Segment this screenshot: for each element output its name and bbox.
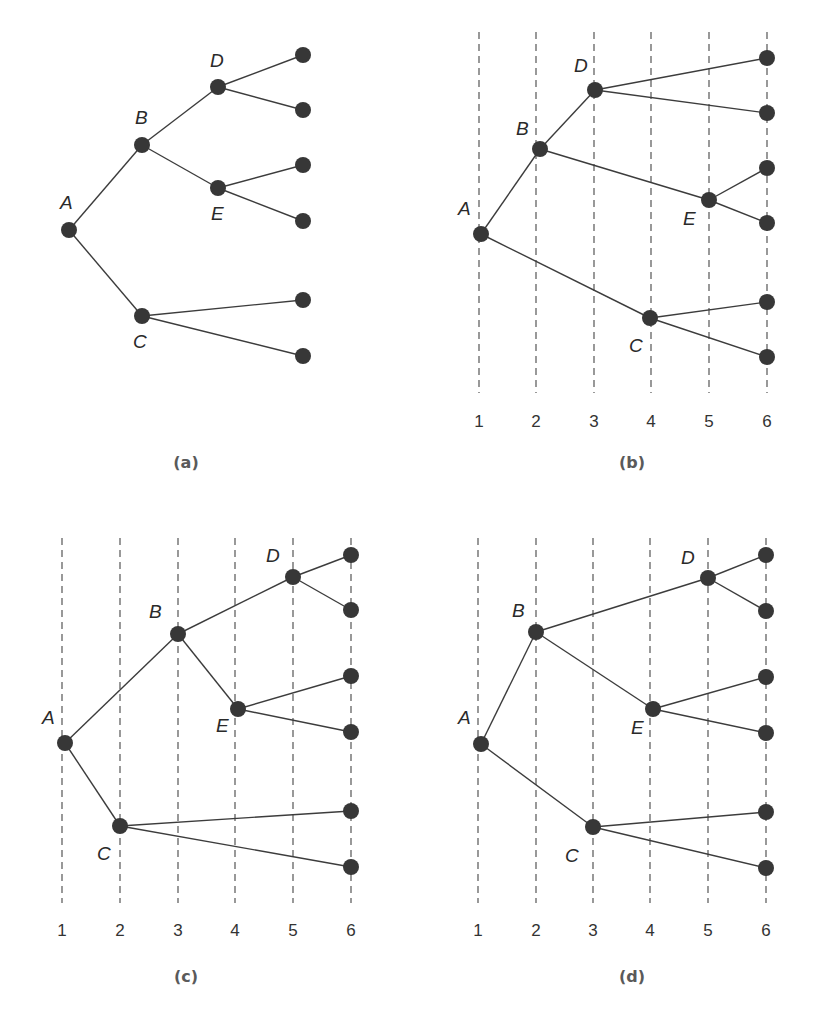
- edge-b-e: [536, 632, 653, 709]
- stage-number-label: 2: [531, 921, 540, 940]
- stage-number-label: 2: [115, 921, 124, 940]
- stage-number-label: 5: [704, 412, 713, 431]
- edge-b-e: [178, 634, 238, 709]
- node-c: [585, 819, 601, 835]
- leaf-node: [758, 603, 774, 619]
- panel-caption: (d): [619, 967, 645, 986]
- leaf-node: [758, 860, 774, 876]
- node-label-c: C: [565, 845, 579, 866]
- stage-number-label: 6: [761, 921, 770, 940]
- node-label-a: A: [457, 198, 471, 219]
- node-label-c: C: [97, 843, 111, 864]
- node-a: [61, 222, 77, 238]
- node-a: [57, 735, 73, 751]
- node-d: [210, 79, 226, 95]
- stage-number-label: 3: [173, 921, 182, 940]
- edge-b-d: [142, 87, 218, 145]
- node-label-c: C: [133, 331, 147, 352]
- edge-a-b: [481, 149, 540, 234]
- edge-b-e: [540, 149, 709, 200]
- leaf-node: [758, 804, 774, 820]
- node-d: [285, 569, 301, 585]
- edge-a-b: [65, 634, 178, 743]
- node-e: [230, 701, 246, 717]
- leaf-node: [759, 160, 775, 176]
- node-label-a: A: [457, 707, 471, 728]
- edge-c-l6: [142, 316, 303, 356]
- edge-e-l4: [653, 709, 766, 733]
- node-label-a: A: [41, 707, 55, 728]
- leaf-node: [295, 292, 311, 308]
- node-e: [210, 180, 226, 196]
- panel-caption: (b): [619, 453, 645, 472]
- edge-b-e: [142, 145, 218, 188]
- node-b: [170, 626, 186, 642]
- edge-a-b: [481, 632, 536, 744]
- edge-d-l2: [595, 90, 767, 113]
- node-label-e: E: [211, 203, 224, 224]
- leaf-node: [759, 349, 775, 365]
- leaf-node: [343, 859, 359, 875]
- leaf-node: [295, 157, 311, 173]
- edge-d-l2: [708, 578, 766, 611]
- node-label-d: D: [574, 55, 588, 76]
- node-e: [645, 701, 661, 717]
- leaf-node: [758, 669, 774, 685]
- panel-a: ABCDE(a): [59, 47, 311, 472]
- leaf-node: [758, 547, 774, 563]
- edge-e-l4: [238, 709, 351, 732]
- edge-a-c: [481, 744, 593, 827]
- node-b: [532, 141, 548, 157]
- edge-d-l2: [293, 577, 351, 610]
- edge-a-c: [481, 234, 650, 318]
- leaf-node: [343, 724, 359, 740]
- edge-d-l2: [218, 87, 303, 110]
- stage-number-label: 4: [646, 412, 655, 431]
- node-label-d: D: [210, 50, 224, 71]
- edge-e-l3: [709, 168, 767, 200]
- node-b: [134, 137, 150, 153]
- node-label-d: D: [266, 545, 280, 566]
- node-e: [701, 192, 717, 208]
- node-label-e: E: [683, 208, 696, 229]
- edge-b-d: [540, 90, 595, 149]
- node-label-b: B: [516, 118, 529, 139]
- stage-number-label: 6: [346, 921, 355, 940]
- node-label-b: B: [512, 600, 525, 621]
- edge-b-d: [536, 578, 708, 632]
- node-b: [528, 624, 544, 640]
- node-a: [473, 736, 489, 752]
- leaf-node: [295, 47, 311, 63]
- node-label-e: E: [216, 715, 229, 736]
- edge-a-c: [65, 743, 120, 826]
- panel-c: 123456ABCDE(c): [41, 538, 359, 986]
- node-d: [587, 82, 603, 98]
- leaf-node: [295, 348, 311, 364]
- leaf-node: [295, 102, 311, 118]
- leaf-node: [759, 50, 775, 66]
- stage-number-label: 5: [703, 921, 712, 940]
- node-label-c: C: [629, 335, 643, 356]
- leaf-node: [759, 294, 775, 310]
- edge-e-l3: [653, 677, 766, 709]
- edge-c-l5: [650, 302, 767, 318]
- edge-a-b: [69, 145, 142, 230]
- leaf-node: [759, 215, 775, 231]
- stage-number-label: 4: [230, 921, 239, 940]
- edge-d-l1: [595, 58, 767, 90]
- stage-number-label: 1: [474, 412, 483, 431]
- edge-c-l5: [593, 812, 766, 827]
- stage-number-label: 3: [588, 921, 597, 940]
- node-label-a: A: [59, 192, 73, 213]
- edge-d-l1: [708, 555, 766, 578]
- edge-e-l3: [218, 165, 303, 188]
- leaf-node: [343, 668, 359, 684]
- stage-number-label: 1: [473, 921, 482, 940]
- tree-layout-figure: ABCDE(a) 123456ABCDE(b) 123456ABCDE(c) 1…: [0, 0, 821, 1013]
- edge-d-l1: [218, 55, 303, 87]
- leaf-node: [343, 803, 359, 819]
- edge-e-l4: [218, 188, 303, 221]
- edge-c-l5: [120, 811, 351, 826]
- stage-number-label: 5: [288, 921, 297, 940]
- leaf-node: [343, 547, 359, 563]
